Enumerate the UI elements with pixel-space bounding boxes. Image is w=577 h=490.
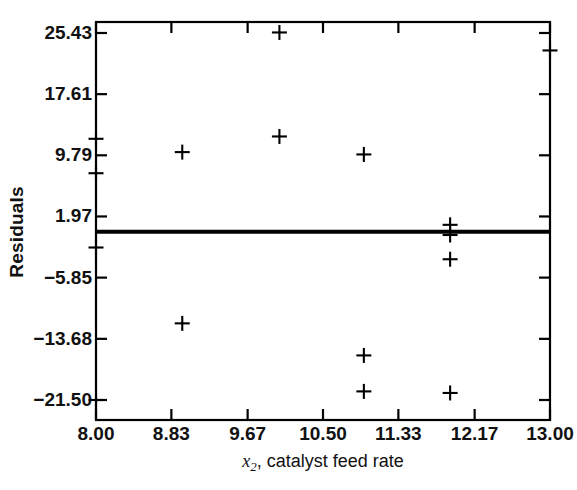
x-tick-label-6: 13.00 — [505, 424, 577, 443]
data-point-marker — [89, 393, 104, 408]
data-point-marker — [272, 25, 287, 40]
x-axis-variable-name: x — [242, 451, 250, 471]
x-axis-title: x2, catalyst feed rate — [96, 452, 550, 473]
data-points — [89, 25, 558, 408]
data-point-marker — [89, 131, 104, 146]
data-point-marker — [89, 166, 104, 181]
data-point-marker — [356, 348, 371, 363]
data-point-marker — [175, 145, 190, 160]
data-point-marker — [356, 147, 371, 162]
plot-frame-rect — [96, 22, 550, 420]
plot-area — [0, 0, 577, 490]
data-point-marker — [543, 43, 558, 58]
data-point-marker — [272, 129, 287, 144]
data-point-marker — [175, 316, 190, 331]
data-point-marker — [443, 252, 458, 267]
axis-ticks — [96, 22, 550, 420]
data-point-marker — [89, 240, 104, 255]
residuals-scatter-figure: Residuals 25.4317.619.791.97−5.85−13.68−… — [0, 0, 577, 490]
data-point-marker — [443, 385, 458, 400]
plot-frame — [96, 22, 550, 420]
x-axis-title-rest: , catalyst feed rate — [257, 451, 404, 471]
x-axis-tick-labels: 8.008.839.6710.5011.3312.1713.00 — [0, 424, 577, 454]
data-point-marker — [356, 384, 371, 399]
data-point-marker — [443, 227, 458, 242]
